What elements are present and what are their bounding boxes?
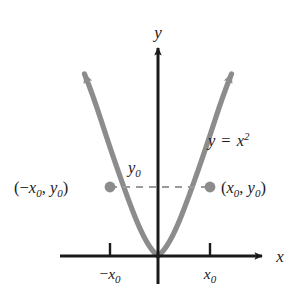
- equation-label-equals: =: [221, 131, 230, 150]
- point-label-positive: (x0, y0): [221, 178, 266, 199]
- tick-label-positive-x0: x0: [203, 265, 217, 285]
- point-label-positive-comma: ,: [239, 178, 247, 197]
- equation-label-exponent: 2: [244, 130, 250, 142]
- svg-text:−x0: −x0: [99, 265, 121, 285]
- tick-label-negative-base: x: [107, 265, 115, 282]
- equation-label-y: y: [206, 131, 216, 150]
- y0-value-label: y0: [126, 158, 141, 179]
- svg-text:(x0, y0): (x0, y0): [221, 178, 266, 199]
- tick-label-negative-sign: −: [99, 265, 108, 282]
- point-label-negative-comma: ,: [42, 178, 50, 197]
- figure-canvas: y x y=x2 y0 (−x0, y0) (x0, y0): [0, 0, 308, 298]
- point-marker-negative: [105, 182, 116, 193]
- point-label-negative: (−x0, y0): [14, 178, 68, 199]
- svg-text:x0: x0: [203, 265, 217, 285]
- svg-text:(−x0, y0): (−x0, y0): [14, 178, 68, 199]
- equation-label: y=x2: [206, 130, 250, 150]
- tick-label-negative-sub: 0: [115, 273, 121, 285]
- tick-label-positive-sub: 0: [211, 273, 217, 285]
- x-axis-label: x: [275, 247, 284, 266]
- svg-text:y=x2: y=x2: [206, 130, 250, 150]
- point-marker-positive: [205, 182, 216, 193]
- svg-text:y0: y0: [126, 158, 141, 179]
- point-label-positive-close: ): [260, 178, 266, 197]
- y-axis-label: y: [152, 23, 162, 42]
- parabola-figure: y x y=x2 y0 (−x0, y0) (x0, y0): [0, 0, 308, 298]
- parabola-curve-right: [158, 74, 232, 256]
- point-label-negative-close: ): [63, 178, 69, 197]
- parabola-curve-left: [85, 74, 159, 256]
- tick-label-negative-x0: −x0: [99, 265, 121, 285]
- y0-label-subscript: 0: [135, 167, 141, 179]
- point-label-negative-open: (−: [14, 178, 29, 197]
- tick-label-positive-base: x: [203, 265, 211, 282]
